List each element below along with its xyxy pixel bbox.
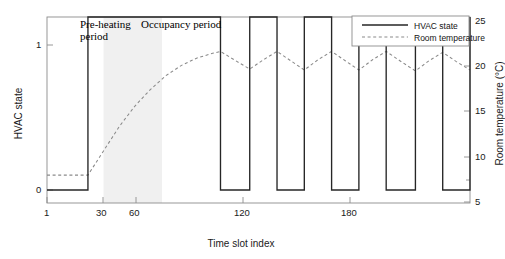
x-tick-1: 1 xyxy=(44,207,49,218)
x-axis-label: Time slot index xyxy=(176,238,306,249)
x-tick-180: 180 xyxy=(341,207,357,218)
y-tick-right-15: 15 xyxy=(475,105,486,116)
legend-label-room-temperature: Room temperature xyxy=(414,33,485,43)
y-tick-right-20: 20 xyxy=(475,60,486,71)
x-tick-30: 30 xyxy=(96,207,107,218)
annotation-pre-heating-period: Pre-heating period xyxy=(80,19,136,42)
y-tick-right-10: 10 xyxy=(475,151,486,162)
y-axis-right-label: Room temperature (°C) xyxy=(494,59,505,169)
pre-heating-shaded-region xyxy=(104,17,162,203)
annotation-occupancy-period: Occupancy period xyxy=(141,19,261,31)
y-tick-left-1: 1 xyxy=(36,39,41,50)
x-axis-ticks xyxy=(47,197,350,203)
y-tick-right-5: 5 xyxy=(475,196,480,207)
y-tick-right-25: 25 xyxy=(475,15,486,26)
x-tick-120: 120 xyxy=(234,207,250,218)
y-axis-left-label: HVAC state xyxy=(13,74,24,154)
x-tick-60: 60 xyxy=(129,207,140,218)
legend-label-hvac-state: HVAC state xyxy=(414,21,458,31)
y-tick-left-0: 0 xyxy=(36,184,41,195)
y-axis-right-ticks xyxy=(464,21,470,202)
y-axis-left-ticks xyxy=(47,45,53,190)
